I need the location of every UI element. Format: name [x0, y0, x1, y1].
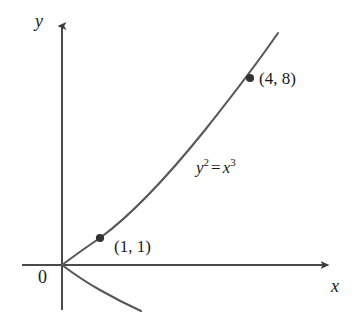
point-marker-1-1 [96, 234, 104, 242]
equation-operator: = [209, 158, 223, 177]
x-axis-label: x [331, 277, 339, 295]
curve-figure: y x 0 (1, 1) (4, 8) y2=x3 [0, 0, 355, 327]
y-axis-label: y [35, 12, 43, 30]
plot-canvas [0, 0, 355, 327]
curve-upper-branch [62, 33, 278, 265]
point-marker-4-8 [246, 74, 254, 82]
curve-equation-label: y2=x3 [196, 157, 236, 176]
curve-lower-branch [62, 265, 141, 311]
equation-rhs-exponent: 3 [230, 156, 236, 168]
equation-lhs-base: y [196, 158, 204, 177]
point-label-4-8: (4, 8) [259, 70, 296, 87]
point-label-1-1: (1, 1) [114, 238, 151, 255]
origin-label: 0 [38, 268, 47, 286]
